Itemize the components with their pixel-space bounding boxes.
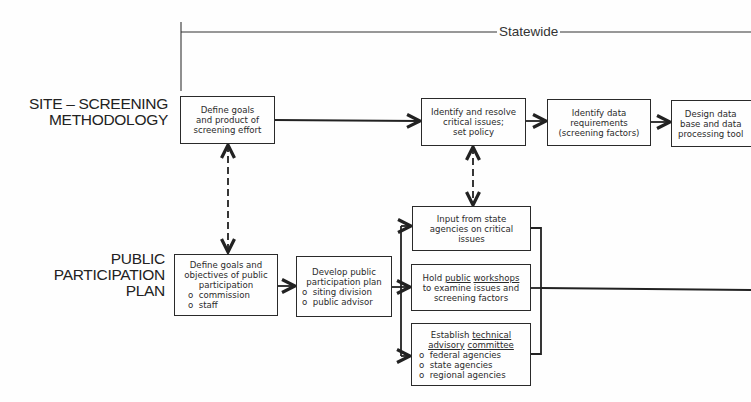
box-list: siting division public advisor xyxy=(300,287,388,307)
box-text: Design data base and data processing too… xyxy=(678,109,743,139)
output-line xyxy=(541,288,751,290)
right-bus xyxy=(530,228,541,354)
box-text: advisory committee xyxy=(415,340,527,350)
box-text: to examine issues and screening factors xyxy=(415,283,527,303)
lane-label-public-participation: PUBLIC PARTICIPATION PLAN xyxy=(10,251,165,299)
box-define-goals-screening: Define goals and product of screening ef… xyxy=(180,96,275,144)
list-item: regional agencies xyxy=(419,370,527,380)
box-text: Establish technical xyxy=(415,330,527,340)
statewide-label: Statewide xyxy=(497,24,560,39)
box-text: Develop public participation plan xyxy=(300,267,388,287)
box-text: Define goals and product of screening ef… xyxy=(184,105,271,135)
underlined-text: advisory xyxy=(428,340,465,350)
text-fragment: Hold xyxy=(423,273,445,283)
connector-layer xyxy=(0,0,751,402)
box-define-public-participation-goals: Define goals and objectives of public pa… xyxy=(174,254,278,316)
box-text: Identify data requirements (screening fa… xyxy=(551,108,647,138)
box-identify-data-requirements: Identify data requirements (screening fa… xyxy=(547,99,651,146)
text-fragment: Establish xyxy=(431,330,472,340)
statewide-bracket xyxy=(181,22,751,91)
arrow-ssm1-ssm2 xyxy=(274,120,420,121)
list-item: state agencies xyxy=(419,360,527,370)
box-public-workshops: Hold public workshops to examine issues … xyxy=(411,264,531,311)
list-item: federal agencies xyxy=(419,350,527,360)
underlined-text: workshops xyxy=(473,273,519,283)
box-list: federal agencies state agencies regional… xyxy=(415,350,527,380)
list-item: public advisor xyxy=(302,297,388,307)
list-item: commission xyxy=(188,290,274,300)
box-design-database: Design data base and data processing too… xyxy=(671,100,751,147)
box-text: Define goals and objectives of public pa… xyxy=(178,260,274,290)
box-text: Input from state agencies on critical is… xyxy=(416,214,527,244)
underlined-text: committee xyxy=(467,340,513,350)
box-list: commission staff xyxy=(178,290,274,310)
lane-label-site-screening: SITE – SCREENING METHODOLOGY xyxy=(10,96,168,128)
box-technical-advisory-committee: Establish technical advisory committee f… xyxy=(411,323,531,386)
box-text: Identify and resolve critical issues; se… xyxy=(425,107,522,137)
list-item: siting division xyxy=(302,287,388,297)
box-develop-participation-plan: Develop public participation plan siting… xyxy=(296,256,392,317)
underlined-text: technical xyxy=(472,330,511,340)
list-item: staff xyxy=(188,300,274,310)
box-state-agency-input: Input from state agencies on critical is… xyxy=(412,206,531,251)
underlined-text: public xyxy=(445,273,471,283)
box-resolve-critical-issues: Identify and resolve critical issues; se… xyxy=(421,98,526,146)
box-text: Hold public workshops xyxy=(415,273,527,283)
